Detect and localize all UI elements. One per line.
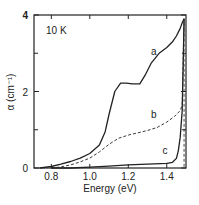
series-label-a: a xyxy=(151,46,157,57)
x-ticks: 0.81.01.21.4 xyxy=(44,15,174,182)
x-axis-label: Energy (eV) xyxy=(83,183,136,194)
y-tick-label: 0 xyxy=(22,163,28,174)
curves: abc xyxy=(40,19,184,168)
x-tick-label: 1.4 xyxy=(160,171,174,182)
series-label-c: c xyxy=(163,145,168,156)
chart: 0.81.01.21.4 024 abc 10 K Energy (eV) α … xyxy=(0,0,199,205)
y-tick-label: 2 xyxy=(22,87,28,98)
temperature-annotation: 10 K xyxy=(46,25,67,36)
series-label-b: b xyxy=(151,109,157,120)
y-tick-label: 4 xyxy=(22,10,28,21)
x-tick-label: 0.8 xyxy=(44,171,58,182)
y-axis-label: α (cm⁻¹) xyxy=(5,74,16,111)
x-tick-label: 1.0 xyxy=(83,171,97,182)
x-tick-label: 1.2 xyxy=(121,171,135,182)
